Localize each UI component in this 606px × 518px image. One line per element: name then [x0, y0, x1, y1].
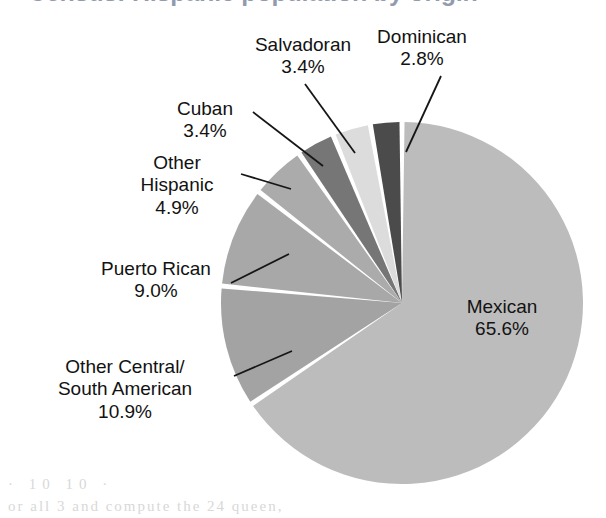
slice-label-cuban-text: Cuban: [160, 98, 250, 120]
slice-label-other-csa-line1: Other Central/: [20, 356, 230, 378]
slice-label-other-hispanic-line1: Other: [118, 152, 236, 174]
slice-label-salvadoran: Salvadoran 3.4%: [248, 34, 358, 79]
slice-label-salvadoran-percent: 3.4%: [248, 56, 358, 78]
slice-label-mexican-text: Mexican: [440, 296, 564, 318]
slice-label-other-csa-percent: 10.9%: [20, 401, 230, 423]
slice-label-dominican-text: Dominican: [366, 26, 478, 48]
slice-label-puerto-rican: Puerto Rican 9.0%: [84, 258, 228, 303]
leader-cuban: [253, 112, 323, 166]
pie-chart-figure: Census: Hispanic population by origin Sa…: [0, 0, 606, 518]
slice-label-other-hispanic-percent: 4.9%: [118, 197, 236, 219]
slice-label-dominican: Dominican 2.8%: [366, 26, 478, 71]
slice-label-cuban: Cuban 3.4%: [160, 98, 250, 143]
slice-label-puerto-rican-percent: 9.0%: [84, 280, 228, 302]
slice-label-mexican-percent: 65.6%: [440, 318, 564, 340]
slice-label-other-hispanic-line2: Hispanic: [118, 174, 236, 196]
slice-label-dominican-percent: 2.8%: [366, 48, 478, 70]
slice-label-other-csa-line2: South American: [20, 378, 230, 400]
slice-label-puerto-rican-text: Puerto Rican: [84, 258, 228, 280]
slice-label-other-hispanic: Other Hispanic 4.9%: [118, 152, 236, 219]
slice-label-salvadoran-text: Salvadoran: [248, 34, 358, 56]
slice-label-other-central-south-american: Other Central/ South American 10.9%: [20, 356, 230, 423]
slice-label-mexican: Mexican 65.6%: [440, 296, 564, 341]
slice-label-cuban-percent: 3.4%: [160, 120, 250, 142]
